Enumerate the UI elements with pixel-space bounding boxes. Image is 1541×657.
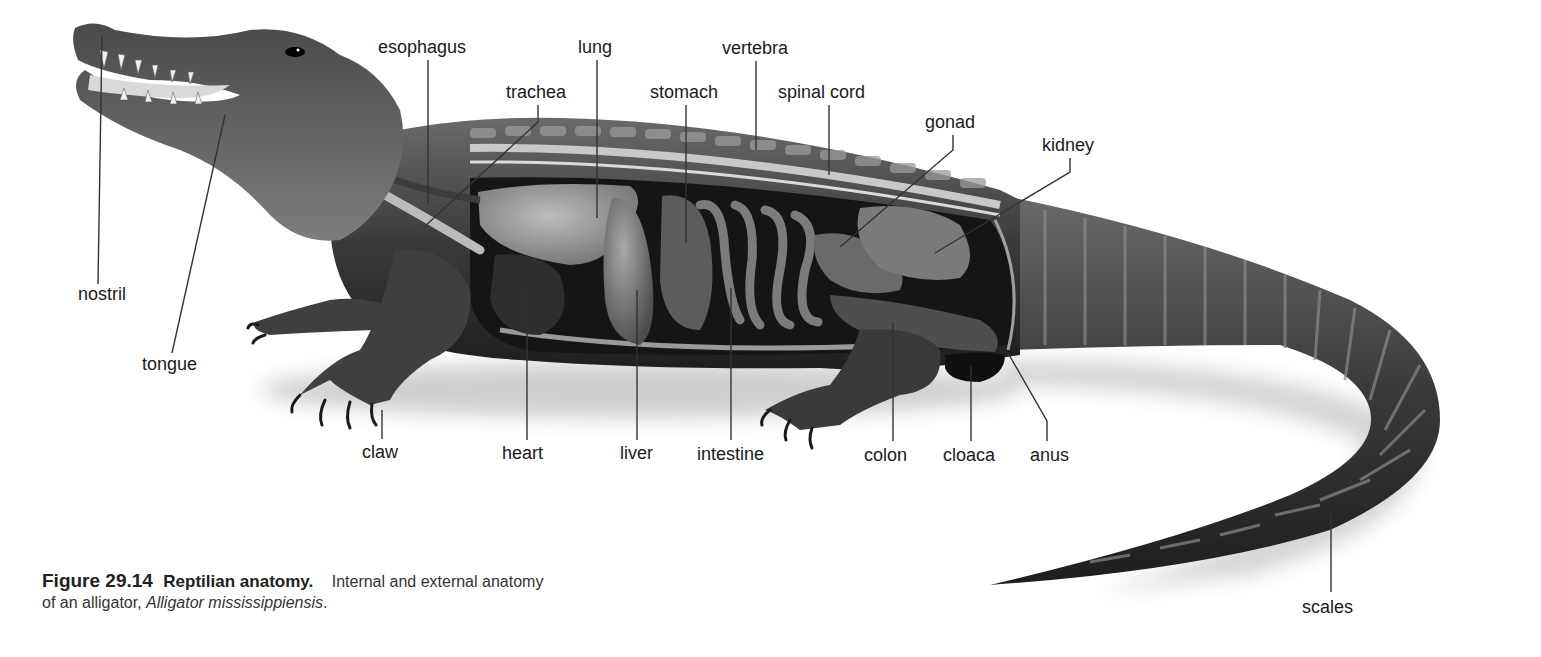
label-gonad: gonad bbox=[925, 112, 975, 132]
head bbox=[73, 23, 403, 240]
label-cloaca: cloaca bbox=[943, 445, 995, 465]
caption-line-1: Figure 29.14 Reptilian anatomy. Internal… bbox=[42, 570, 762, 592]
caption-line-2: of an alligator, Alligator mississippien… bbox=[42, 592, 762, 613]
species-name: Alligator mississippiensis bbox=[146, 594, 323, 611]
label-esophagus: esophagus bbox=[378, 37, 466, 57]
figure-title: Reptilian anatomy. bbox=[163, 572, 313, 591]
label-scales: scales bbox=[1302, 597, 1353, 617]
caption-suffix: . bbox=[323, 594, 327, 611]
alligator-anatomy-illustration bbox=[0, 0, 1541, 657]
label-kidney: kidney bbox=[1042, 135, 1094, 155]
label-intestine: intestine bbox=[697, 444, 764, 464]
caption-text: Internal and external anatomy bbox=[332, 573, 544, 590]
figure-caption: Figure 29.14 Reptilian anatomy. Internal… bbox=[42, 570, 762, 613]
figure-number: Figure 29.14 bbox=[42, 570, 153, 591]
label-liver: liver bbox=[620, 443, 653, 463]
eye bbox=[285, 47, 305, 57]
caption-prefix: of an alligator, bbox=[42, 594, 146, 611]
label-nostril: nostril bbox=[78, 284, 126, 304]
label-tongue: tongue bbox=[142, 354, 197, 374]
label-colon: colon bbox=[864, 445, 907, 465]
label-lung: lung bbox=[578, 37, 612, 57]
label-claw: claw bbox=[362, 442, 398, 462]
label-heart: heart bbox=[502, 443, 543, 463]
leader-line-nostril bbox=[98, 35, 102, 284]
label-anus: anus bbox=[1030, 445, 1069, 465]
label-spinal-cord: spinal cord bbox=[778, 82, 865, 102]
label-stomach: stomach bbox=[650, 82, 718, 102]
label-trachea: trachea bbox=[506, 82, 566, 102]
label-vertebra: vertebra bbox=[722, 38, 788, 58]
